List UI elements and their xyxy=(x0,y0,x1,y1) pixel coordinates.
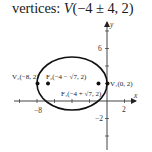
x-tick-label-2: 2 xyxy=(122,105,126,114)
y-axis-label: y xyxy=(109,20,114,29)
vertex-v2-label: V₂(−8, 2) xyxy=(12,73,39,81)
x-tick-label-neg8: −8 xyxy=(34,106,42,115)
ellipse-graph: −8 2 6 −2 x y V₂(−8, 2) F₂(−4 − √7, 2) F… xyxy=(0,0,152,152)
focus-f2-point xyxy=(46,82,50,86)
focus-f1-point xyxy=(97,82,101,86)
vertex-v1-label: V₁(0, 2) xyxy=(110,80,133,88)
vertex-v1-point xyxy=(106,82,110,86)
x-axis-label: x xyxy=(133,91,138,100)
y-tick-label-neg2: −2 xyxy=(95,114,103,123)
focus-f1-label: F₁(−4 + √7, 2) xyxy=(61,90,102,98)
focus-f2-label: F₂(−4 − √7, 2) xyxy=(46,73,87,81)
vertex-v2-point xyxy=(36,82,40,86)
y-tick-label-6: 6 xyxy=(98,44,102,53)
